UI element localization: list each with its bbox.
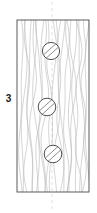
- technical-drawing-svg: [0, 0, 97, 213]
- screw-middle: [38, 98, 57, 116]
- screw-head-circle: [38, 98, 56, 116]
- screw-head-circle: [42, 42, 59, 59]
- figure-number-label: 3: [2, 93, 15, 104]
- screw-head-circle: [44, 145, 62, 163]
- screw-bottom: [44, 145, 63, 163]
- screw-top: [42, 42, 61, 59]
- figure-container: 3: [0, 0, 97, 213]
